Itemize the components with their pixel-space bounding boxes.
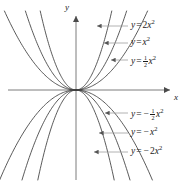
label-half-x2: y=12x2: [131, 55, 156, 69]
label-x2: y=x2: [131, 38, 150, 48]
exponent: 2: [152, 18, 155, 25]
graph-canvas: [0, 0, 191, 182]
fraction: 12: [150, 108, 155, 122]
equals-sign: =: [135, 37, 142, 47]
minus-sign: −: [143, 109, 150, 119]
equals-sign: =: [135, 109, 142, 119]
equals-sign: =: [135, 56, 142, 66]
equals-sign: =: [135, 146, 142, 156]
exponent: 2: [154, 125, 157, 132]
label-neg-half-x2: y=−12x2: [131, 108, 163, 122]
fraction-denominator: 2: [143, 61, 148, 68]
label-neg-x2: y=−x2: [131, 128, 157, 138]
fraction-denominator: 2: [150, 114, 155, 121]
exponent: 2: [147, 35, 150, 42]
minus-sign: −: [143, 146, 150, 156]
exponent: 2: [160, 107, 163, 114]
x-axis-label: x: [174, 93, 178, 102]
y-axis-label: y: [65, 3, 69, 12]
equals-sign: =: [135, 20, 142, 30]
equals-sign: =: [135, 127, 142, 137]
minus-sign: −: [143, 127, 150, 137]
label-neg-2x2: y=−2x2: [131, 147, 162, 157]
exponent: 2: [153, 54, 156, 61]
label-2x2: y=2x2: [131, 21, 155, 31]
exponent: 2: [159, 144, 162, 151]
parabola-family-figure: y x y=2x2y=x2y=12x2y=−12x2y=−x2y=−2x2: [0, 0, 191, 182]
leader-lines-group: [94, 26, 128, 152]
fraction: 12: [143, 55, 148, 69]
